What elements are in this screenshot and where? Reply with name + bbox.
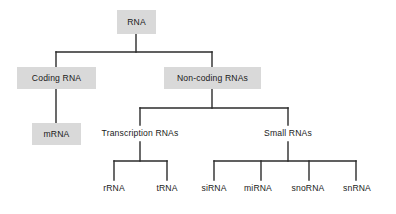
node-mrna-label: mRNA [44, 130, 70, 139]
node-mirna[interactable]: miRNA [236, 180, 280, 196]
node-snrna-label: snRNA [343, 184, 371, 193]
node-transcription-rnas[interactable]: Transcription RNAs [92, 125, 188, 142]
node-mirna-label: miRNA [244, 184, 272, 193]
node-transcription-rnas-label: Transcription RNAs [102, 129, 179, 138]
node-rrna[interactable]: rRNA [95, 180, 133, 196]
node-rna-label: RNA [127, 18, 146, 27]
node-coding-rna[interactable]: Coding RNA [17, 67, 96, 89]
node-trna[interactable]: tRNA [148, 180, 186, 196]
node-snorna[interactable]: snoRNA [283, 180, 333, 196]
node-small-rnas-label: Small RNAs [264, 129, 312, 138]
node-snorna-label: snoRNA [292, 184, 325, 193]
rna-classification-diagram: RNA Coding RNA Non-coding RNAs mRNA Tran… [0, 0, 396, 214]
node-sirna[interactable]: siRNA [193, 180, 235, 196]
node-rrna-label: rRNA [103, 184, 125, 193]
node-non-coding-rnas-label: Non-coding RNAs [177, 74, 248, 83]
node-sirna-label: siRNA [201, 184, 226, 193]
node-coding-rna-label: Coding RNA [32, 74, 81, 83]
node-small-rnas[interactable]: Small RNAs [256, 125, 320, 142]
node-non-coding-rnas[interactable]: Non-coding RNAs [164, 67, 261, 89]
node-trna-label: tRNA [156, 184, 177, 193]
node-snrna[interactable]: snRNA [334, 180, 380, 196]
node-mrna[interactable]: mRNA [32, 123, 81, 145]
node-rna[interactable]: RNA [117, 10, 156, 34]
